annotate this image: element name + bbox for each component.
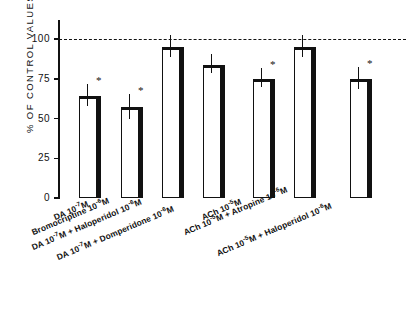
error-bar	[211, 54, 212, 73]
bar[interactable]	[79, 96, 101, 198]
bar-group[interactable]: *	[79, 20, 101, 198]
significance-marker: *	[138, 86, 144, 94]
significance-marker: *	[367, 59, 373, 67]
significance-marker: *	[270, 60, 276, 68]
bar[interactable]	[203, 65, 225, 199]
bar[interactable]	[121, 107, 143, 198]
bar-group[interactable]: *	[253, 20, 275, 198]
error-bar	[129, 94, 130, 119]
bar-group[interactable]: *	[121, 20, 143, 198]
y-tick-label-50: 50	[10, 113, 50, 124]
bar[interactable]	[253, 79, 275, 198]
bar-group[interactable]	[162, 20, 184, 198]
error-bar	[170, 35, 171, 57]
y-tick-label-25: 25	[10, 152, 50, 163]
error-bar	[302, 35, 303, 57]
error-bar	[261, 68, 262, 87]
bar-group[interactable]	[203, 20, 225, 198]
bar-group[interactable]: *	[350, 20, 372, 198]
figure-root: % OF CONTROL VALUES 0255075100 **** DA 1…	[0, 0, 414, 323]
y-tick-label-100: 100	[10, 33, 50, 44]
bar[interactable]	[162, 47, 184, 198]
error-bar	[358, 67, 359, 89]
error-bar	[87, 84, 88, 106]
plot-area: ****	[58, 20, 406, 198]
bar[interactable]	[294, 47, 316, 198]
bar-group[interactable]	[294, 20, 316, 198]
y-tick-label-0: 0	[10, 192, 50, 203]
y-tick-label-75: 75	[10, 73, 50, 84]
bar[interactable]	[350, 79, 372, 198]
significance-marker: *	[96, 76, 102, 84]
